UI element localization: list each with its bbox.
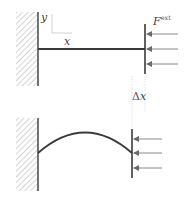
force-label: Fext	[152, 14, 171, 28]
top-panel: y x Fext	[16, 11, 178, 86]
bottom-wall-hatch	[16, 118, 38, 191]
axis-x-label: x	[64, 35, 71, 48]
displacement-label: Δx	[132, 90, 147, 103]
top-wall-hatch	[16, 12, 38, 86]
axis-y-label: y	[40, 11, 48, 24]
bottom-panel	[16, 118, 162, 191]
bottom-buckled-beam	[38, 133, 132, 154]
buckling-diagram: y x Fext Δx	[0, 0, 184, 198]
displacement-guides: Δx	[132, 76, 147, 128]
